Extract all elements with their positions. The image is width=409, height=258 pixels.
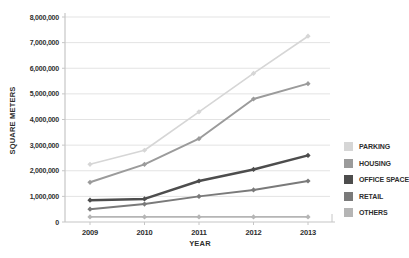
data-point-marker-others [305, 214, 310, 219]
y-tick-label: 3,000,000 [30, 142, 60, 150]
y-tick-label: 4,000,000 [30, 116, 60, 124]
data-point-marker-office-space [251, 167, 256, 172]
x-tick-label: 2012 [246, 228, 262, 237]
series-line-housing [90, 84, 308, 183]
y-tick-label: 6,000,000 [30, 65, 60, 73]
legend-label: OTHERS [359, 209, 388, 216]
x-tick-label: 2010 [137, 228, 153, 237]
data-point-marker-others [87, 214, 92, 219]
legend-label: PARKING [359, 143, 390, 150]
x-tick-label: 2013 [300, 228, 316, 237]
legend-item-office-space: OFFICE SPACE [344, 175, 409, 184]
y-tick-label: 0 [55, 219, 59, 226]
data-point-marker-others [251, 214, 256, 219]
data-point-marker-parking [87, 162, 92, 167]
data-point-marker-others [196, 214, 201, 219]
office-space-swatch-icon [344, 175, 353, 184]
x-tick-label: 2011 [191, 228, 206, 237]
data-point-marker-office-space [305, 153, 310, 158]
y-tick-label: 8,000,000 [30, 14, 60, 22]
data-point-marker-retail [87, 207, 92, 212]
others-swatch-icon [344, 208, 353, 217]
legend-item-parking: PARKING [344, 142, 409, 151]
retail-swatch-icon [344, 192, 353, 201]
x-axis-title: YEAR [160, 239, 240, 248]
legend-item-housing: HOUSING [344, 159, 409, 168]
data-point-marker-retail [196, 194, 201, 199]
x-tick-label: 2009 [82, 228, 98, 237]
parking-swatch-icon [344, 142, 353, 151]
y-tick-label: 5,000,000 [30, 90, 60, 98]
legend-label: RETAIL [359, 193, 383, 200]
data-point-marker-retail [251, 187, 256, 192]
chart-legend: PARKING HOUSING OFFICE SPACE RETAIL OTHE… [344, 142, 409, 217]
y-axis-title: SQUARE METERS [8, 82, 17, 160]
y-tick-label: 7,000,000 [30, 39, 60, 47]
data-point-marker-office-space [87, 198, 92, 203]
legend-item-others: OTHERS [344, 208, 409, 217]
legend-label: HOUSING [359, 160, 391, 167]
data-point-marker-housing [87, 180, 92, 185]
y-tick-label: 2,000,000 [30, 167, 60, 175]
data-point-marker-retail [305, 178, 310, 183]
series-line-office-space [90, 155, 308, 200]
line-chart-plot: 01,000,0002,000,0003,000,0004,000,0005,0… [0, 0, 409, 258]
housing-swatch-icon [344, 159, 353, 168]
legend-item-retail: RETAIL [344, 192, 409, 201]
y-tick-label: 1,000,000 [30, 193, 60, 201]
data-point-marker-retail [142, 201, 147, 206]
legend-label: OFFICE SPACE [359, 176, 409, 183]
chart-canvas: 01,000,0002,000,0003,000,0004,000,0005,0… [0, 0, 409, 258]
data-point-marker-others [142, 214, 147, 219]
data-point-marker-housing [305, 81, 310, 86]
